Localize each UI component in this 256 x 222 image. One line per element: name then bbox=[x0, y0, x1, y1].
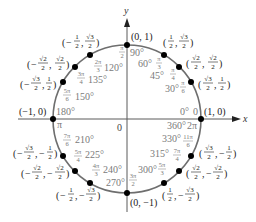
svg-text:√2: √2 bbox=[56, 55, 64, 63]
rad-30: π 6 bbox=[180, 79, 186, 94]
svg-text:−: − bbox=[219, 148, 225, 159]
svg-text:√3: √3 bbox=[186, 186, 194, 194]
svg-text:√3: √3 bbox=[205, 144, 213, 152]
svg-text:,: , bbox=[175, 37, 178, 48]
svg-text:2: 2 bbox=[27, 153, 31, 161]
svg-text:2: 2 bbox=[220, 84, 224, 92]
svg-text:6: 6 bbox=[181, 87, 185, 94]
svg-text:−: − bbox=[60, 190, 66, 201]
svg-text:2: 2 bbox=[194, 173, 198, 181]
svg-text:,: , bbox=[174, 190, 177, 201]
svg-text:): ) bbox=[53, 79, 56, 91]
coord-240: ( − 1 2 , − √3 2 ) bbox=[56, 186, 100, 203]
svg-text:1: 1 bbox=[48, 144, 52, 152]
svg-text:(: ( bbox=[199, 148, 203, 160]
svg-text:,: , bbox=[42, 79, 45, 90]
coord-225: ( − √2 2 , − √2 2 ) bbox=[21, 164, 69, 181]
coord-60: ( 1 2 , √3 2 ) bbox=[163, 33, 193, 50]
x-axis-label: x bbox=[242, 113, 248, 124]
svg-text:,: , bbox=[214, 79, 217, 90]
svg-text:3: 3 bbox=[96, 66, 99, 73]
svg-text:1: 1 bbox=[227, 144, 231, 152]
svg-text:√3: √3 bbox=[25, 144, 33, 152]
deg-60: 60° bbox=[138, 58, 152, 69]
svg-text:√2: √2 bbox=[192, 164, 200, 172]
deg-120: 120° bbox=[104, 62, 123, 73]
deg-300: 300° bbox=[138, 164, 157, 175]
rad-2pi: 2π bbox=[187, 120, 197, 131]
svg-text:2: 2 bbox=[182, 42, 186, 50]
svg-text:,: , bbox=[202, 168, 205, 179]
svg-text:−: − bbox=[24, 79, 30, 90]
svg-text:5π: 5π bbox=[64, 87, 71, 94]
svg-text:11π: 11π bbox=[183, 133, 193, 140]
svg-text:−: − bbox=[17, 148, 23, 159]
svg-text:√2: √2 bbox=[214, 164, 222, 172]
svg-text:): ) bbox=[66, 59, 69, 71]
svg-text:2: 2 bbox=[34, 84, 38, 92]
svg-text:−: − bbox=[47, 168, 53, 179]
deg-150: 150° bbox=[75, 91, 94, 102]
unit-circle-diagram: x y 0 (1, 0) (0, 1) (−1, 0) (0, −1) 0° 0… bbox=[0, 0, 256, 222]
y-axis-label: y bbox=[123, 5, 129, 16]
coord-300: ( 1 2 , − √3 2 ) bbox=[162, 186, 199, 203]
rad-210: 7π 6 bbox=[63, 132, 71, 147]
deg-135: 135° bbox=[88, 74, 107, 85]
svg-text:3: 3 bbox=[94, 170, 97, 177]
deg-315: 315° bbox=[150, 148, 169, 159]
svg-text:−: − bbox=[66, 37, 72, 48]
deg-225: 225° bbox=[85, 149, 104, 160]
svg-text:2: 2 bbox=[207, 153, 211, 161]
point-30 bbox=[188, 79, 194, 85]
svg-text:√3: √3 bbox=[87, 186, 95, 194]
rad-270: 3π 2 bbox=[129, 172, 137, 187]
svg-text:2: 2 bbox=[58, 173, 62, 181]
svg-text:√2: √2 bbox=[39, 55, 47, 63]
svg-text:): ) bbox=[190, 37, 193, 49]
svg-text:): ) bbox=[54, 148, 57, 160]
svg-text:4: 4 bbox=[175, 155, 179, 162]
svg-text:(: ( bbox=[163, 37, 167, 49]
svg-text:√3: √3 bbox=[86, 33, 94, 41]
deg-360: 360° bbox=[167, 120, 186, 131]
rad-315: 7π 4 bbox=[173, 147, 181, 162]
deg-90: 90° bbox=[130, 47, 144, 58]
rad-180: π bbox=[57, 119, 62, 130]
svg-text:−: − bbox=[31, 59, 37, 70]
coord-210: ( − √3 2 , − 1 2 ) bbox=[13, 144, 57, 161]
svg-text:,: , bbox=[49, 59, 52, 70]
svg-text:6: 6 bbox=[65, 95, 69, 102]
svg-text:5π: 5π bbox=[159, 161, 166, 168]
svg-text:3: 3 bbox=[160, 169, 163, 176]
rad-135: 3π 4 bbox=[77, 70, 85, 85]
deg-210: 210° bbox=[75, 134, 94, 145]
svg-text:3π: 3π bbox=[78, 70, 85, 77]
svg-text:2: 2 bbox=[58, 64, 62, 72]
svg-text:1: 1 bbox=[69, 186, 73, 194]
svg-text:): ) bbox=[219, 58, 222, 70]
svg-text:2: 2 bbox=[216, 173, 220, 181]
svg-text:2: 2 bbox=[47, 84, 51, 92]
svg-text:2: 2 bbox=[35, 173, 39, 181]
svg-text:5π: 5π bbox=[75, 148, 82, 155]
svg-text:): ) bbox=[97, 190, 100, 202]
svg-text:2: 2 bbox=[188, 195, 192, 203]
svg-text:−: − bbox=[206, 168, 212, 179]
rad-300: 5π 3 bbox=[158, 161, 166, 176]
svg-text:2: 2 bbox=[41, 64, 45, 72]
svg-text:7π: 7π bbox=[174, 147, 181, 154]
svg-text:2: 2 bbox=[69, 195, 73, 203]
svg-text:√3: √3 bbox=[180, 33, 188, 41]
svg-text:6: 6 bbox=[65, 140, 69, 147]
svg-text:π: π bbox=[181, 79, 185, 86]
origin-label: 0 bbox=[117, 122, 122, 133]
svg-text:(: ( bbox=[198, 79, 202, 91]
svg-text:3π: 3π bbox=[130, 172, 137, 179]
coord-135: ( − √2 2 , √2 2 ) bbox=[27, 55, 69, 72]
svg-text:1: 1 bbox=[75, 33, 79, 41]
svg-text:): ) bbox=[96, 37, 99, 49]
svg-text:π: π bbox=[157, 55, 161, 62]
deg-270: 270° bbox=[106, 177, 125, 188]
svg-text:): ) bbox=[233, 148, 236, 160]
point-330 bbox=[188, 153, 194, 159]
